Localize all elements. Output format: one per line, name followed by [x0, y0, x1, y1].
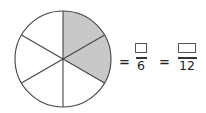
- equals-sign-1: =: [119, 55, 130, 68]
- sector-circle: [0, 0, 206, 113]
- numerator-answer-box-1[interactable]: [135, 43, 147, 53]
- numerator-answer-box-2[interactable]: [178, 43, 196, 53]
- equals-sign-2: =: [159, 55, 170, 68]
- denominator-2: 12: [177, 60, 197, 73]
- fraction-figure: = 6 = 12: [0, 0, 206, 113]
- denominator-1: 6: [134, 60, 148, 73]
